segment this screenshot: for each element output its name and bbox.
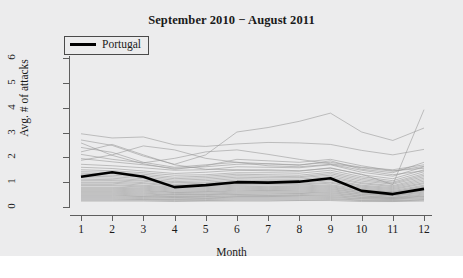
- legend-label-portugal: Portugal: [102, 39, 141, 51]
- y-tick-label: 5: [5, 71, 17, 93]
- y-tick-mark: [63, 83, 69, 84]
- x-tick-mark: [206, 216, 207, 221]
- x-tick-label: 7: [256, 223, 280, 235]
- x-tick-label: 11: [381, 223, 405, 235]
- x-tick-mark: [362, 216, 363, 221]
- x-tick-label: 3: [131, 223, 155, 235]
- x-tick-mark: [424, 216, 425, 221]
- series-line: [81, 134, 424, 155]
- x-tick-label: 9: [319, 223, 343, 235]
- chart-figure: September 2010 − August 2011 0123456 Avg…: [0, 0, 463, 278]
- x-tick-label: 2: [100, 223, 124, 235]
- x-tick-label: 10: [350, 223, 374, 235]
- x-tick-mark: [112, 216, 113, 221]
- x-tick-label: 4: [163, 223, 187, 235]
- y-tick-mark: [63, 157, 69, 158]
- x-tick-mark: [143, 216, 144, 221]
- series-line: [81, 113, 424, 164]
- y-tick-label: 3: [5, 121, 17, 143]
- x-tick-label: 12: [412, 223, 436, 235]
- series-line: [81, 143, 424, 171]
- x-tick-mark: [268, 216, 269, 221]
- y-tick-mark: [63, 182, 69, 183]
- x-tick-mark: [175, 216, 176, 221]
- y-tick-mark: [63, 58, 69, 59]
- y-tick-label: 6: [5, 46, 17, 68]
- x-axis-line: [70, 215, 432, 216]
- plot-lines-svg: [70, 50, 434, 208]
- x-tick-mark: [237, 216, 238, 221]
- x-tick-label: 6: [225, 223, 249, 235]
- y-axis-line: [69, 56, 70, 208]
- legend-box: Portugal: [64, 36, 149, 55]
- figure-bottom-margin: [0, 256, 463, 278]
- x-tick-mark: [81, 216, 82, 221]
- x-tick-label: 1: [69, 223, 93, 235]
- plot-area: [70, 50, 434, 208]
- y-tick-mark: [63, 108, 69, 109]
- x-tick-label: 8: [287, 223, 311, 235]
- legend-line-sample-portugal: [70, 43, 96, 46]
- x-tick-mark: [331, 216, 332, 221]
- x-tick-label: 5: [194, 223, 218, 235]
- y-axis-title: Avg. # of attacks: [18, 38, 30, 158]
- series-line: [81, 147, 424, 169]
- y-tick-label: 2: [5, 145, 17, 167]
- x-axis-title: Month: [0, 246, 463, 258]
- background-series-group: [81, 110, 424, 202]
- chart-title: September 2010 − August 2011: [0, 13, 463, 28]
- x-tick-mark: [393, 216, 394, 221]
- y-tick-label: 1: [5, 170, 17, 192]
- y-tick-mark: [63, 133, 69, 134]
- y-tick-label: 4: [5, 96, 17, 118]
- y-tick-label: 0: [5, 195, 17, 217]
- x-tick-mark: [299, 216, 300, 221]
- y-tick-mark: [63, 207, 69, 208]
